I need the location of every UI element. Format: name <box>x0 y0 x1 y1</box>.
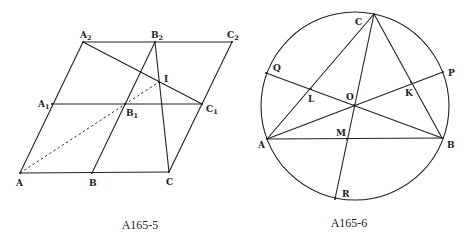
label-R: R <box>342 189 350 199</box>
label-C2: C2 <box>227 30 239 42</box>
segment-C-A <box>267 14 374 139</box>
label-B: B <box>89 178 97 188</box>
point-C <box>168 171 170 173</box>
segment-A-C <box>20 172 169 173</box>
figure-a165-6: ABCPQROLKM <box>257 12 455 200</box>
segment-C-R <box>335 14 374 199</box>
dashed-segment-A-I <box>20 82 159 173</box>
label-L: L <box>308 94 315 104</box>
point-B <box>91 172 93 174</box>
point-M <box>346 138 348 140</box>
label-A: A <box>257 140 266 150</box>
label-O: O <box>346 92 354 102</box>
label-Q: Q <box>273 63 281 73</box>
point-R <box>334 198 336 200</box>
point-I <box>158 81 160 83</box>
label-M: M <box>336 128 346 138</box>
point-B2 <box>154 41 156 43</box>
label-A: A <box>15 178 24 188</box>
segment-B-B2 <box>92 42 155 173</box>
segment-A2-C1 <box>83 42 202 104</box>
label-K: K <box>405 88 414 98</box>
point-A1 <box>51 103 53 105</box>
caption-a165-6: A165-6 <box>331 216 368 230</box>
label-A2: A2 <box>79 30 92 42</box>
label-C: C <box>355 17 362 27</box>
point-K <box>410 81 412 83</box>
label-A1: A1 <box>37 99 50 111</box>
label-B1: B1 <box>126 108 138 120</box>
segment-C-C2 <box>169 42 232 172</box>
segment-B2-C <box>155 42 169 172</box>
label-B: B <box>447 140 455 150</box>
segment-A-B <box>267 138 442 139</box>
segment-A-A2 <box>20 42 83 173</box>
label-P: P <box>448 68 455 78</box>
point-L <box>310 88 312 90</box>
point-A <box>19 172 21 174</box>
point-C <box>373 13 375 15</box>
point-C2 <box>231 41 233 43</box>
point-B <box>441 137 443 139</box>
point-O <box>353 104 355 106</box>
point-C1 <box>201 103 203 105</box>
figure-a165-5: ABCA1B1C1A2B2C2I <box>15 30 239 188</box>
point-B1 <box>124 103 126 105</box>
label-C1: C1 <box>206 104 218 116</box>
label-I: I <box>164 74 168 84</box>
point-Q <box>265 72 267 74</box>
point-P <box>442 71 444 73</box>
caption-a165-5: A165-5 <box>122 218 159 232</box>
point-A2 <box>82 41 84 43</box>
diagram-canvas: ABCA1B1C1A2B2C2I ABCPQROLKM A165-5 A165-… <box>0 0 470 236</box>
point-A <box>266 138 268 140</box>
label-C: C <box>166 177 173 187</box>
label-B2: B2 <box>151 30 163 42</box>
